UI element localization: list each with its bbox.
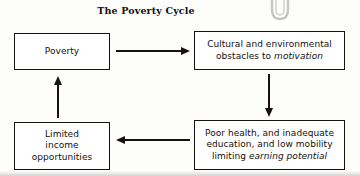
node-obstacles-line1: Cultural and environmental [207,39,332,49]
paperclip-icon [267,0,293,22]
node-limited-income: Limited income opportunities [14,122,110,170]
node-poor-health-line1: Poor health, and inadequate [205,128,334,138]
arrow-poor-health-to-limited-income [116,133,190,147]
arrow-shaft [57,83,59,118]
poverty-cycle-diagram: The Poverty Cycle Poverty Cultural and e… [0,0,360,176]
node-obstacles: Cultural and environmental obstacles to … [194,31,345,70]
node-poverty: Poverty [14,33,110,70]
arrowhead-down-icon [265,108,273,117]
node-poor-health-line2: education, and low mobility [206,139,332,149]
node-poverty-label: Poverty [42,46,82,58]
arrow-limited-income-to-poverty [51,76,65,118]
node-limited-income-text: Limited income opportunities [29,129,95,164]
arrow-shaft [268,74,270,110]
node-poor-health-line3-plain: limiting [212,151,249,161]
scan-edge-shading [0,171,360,176]
arrow-obstacles-to-poor-health [262,74,276,117]
node-poor-health-line3-italic: earning potential [249,151,327,161]
node-limited-income-line2: income [45,140,78,150]
arrowhead-right-icon [181,47,190,55]
node-limited-income-line3: opportunities [32,152,92,162]
node-poor-health: Poor health, and inadequate education, a… [194,120,345,170]
node-obstacles-line2-plain: obstacles to [216,51,274,61]
node-obstacles-text: Cultural and environmental obstacles to … [204,39,335,62]
node-limited-income-line1: Limited [45,129,79,139]
arrow-poverty-to-obstacles [116,44,190,58]
arrowhead-up-icon [54,76,62,85]
arrowhead-left-icon [116,136,125,144]
node-obstacles-line2-italic: motivation [274,51,323,61]
arrow-shaft [116,50,183,52]
arrow-shaft [123,139,190,141]
figure-title: The Poverty Cycle [0,5,292,16]
node-poor-health-text: Poor health, and inadequate education, a… [202,128,337,163]
